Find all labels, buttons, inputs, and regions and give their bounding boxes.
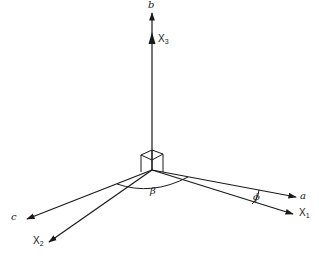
right-angle-box bbox=[141, 150, 163, 172]
x1-axis-label: X1 bbox=[299, 208, 310, 219]
axes-diagram: b X3 a X1 c X2 β ϕ bbox=[0, 0, 319, 258]
b-axis-label: b bbox=[148, 0, 154, 10]
a-axis-label: a bbox=[300, 191, 306, 201]
c-axis-line bbox=[27, 170, 152, 219]
beta-angle-label: β bbox=[150, 186, 156, 196]
x2-axis-line bbox=[49, 170, 152, 242]
x3-axis-label: X3 bbox=[158, 34, 169, 45]
x3-arrowhead bbox=[149, 32, 156, 44]
x2-axis-label: X2 bbox=[33, 236, 44, 247]
c-axis-label: c bbox=[11, 212, 17, 222]
phi-angle-label: ϕ bbox=[253, 192, 260, 202]
